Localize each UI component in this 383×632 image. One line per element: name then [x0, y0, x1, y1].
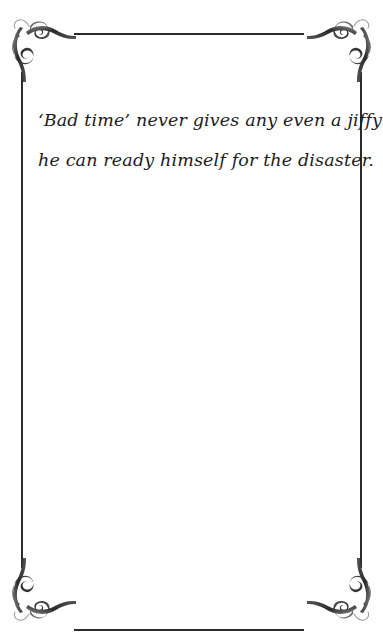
frame-left-rule	[21, 72, 23, 568]
top-right-flourish-icon	[301, 14, 379, 92]
quote-line-1: ‘Bad time’ never gives any even a jiffy …	[38, 100, 338, 140]
bottom-left-flourish-icon	[4, 548, 82, 626]
quote-text-block: ‘Bad time’ never gives any even a jiffy …	[38, 100, 338, 180]
top-left-flourish-icon	[4, 14, 82, 92]
quote-line-2: he can ready himself for the disaster.	[38, 140, 338, 180]
frame-bottom-rule	[74, 629, 304, 631]
bottom-right-flourish-icon	[301, 548, 379, 626]
frame-top-rule	[74, 33, 304, 35]
quote-page: ‘Bad time’ never gives any even a jiffy …	[0, 0, 383, 632]
frame-right-rule	[360, 72, 362, 568]
